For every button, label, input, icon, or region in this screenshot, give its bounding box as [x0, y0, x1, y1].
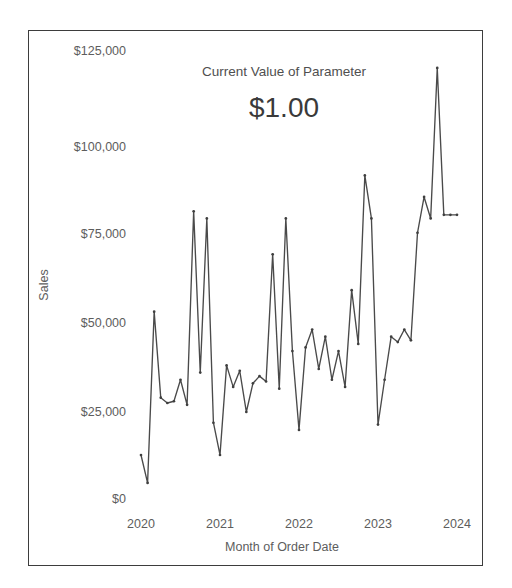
parameter-value: $1.00 [249, 92, 319, 123]
x-tick-label-2024: 2024 [443, 517, 471, 531]
x-axis-title: Month of Order Date [225, 540, 339, 554]
y-tick-label-100000: $100,000 [74, 140, 126, 154]
y-tick-label-125000: $125,000 [74, 44, 126, 58]
x-axis-tick-labels: 2020 2021 2022 2023 2024 [127, 517, 471, 531]
sales-series-line [141, 68, 457, 483]
y-tick-label-0: $0 [112, 492, 126, 506]
parameter-caption: Current Value of Parameter [202, 64, 367, 79]
x-tick-label-2020: 2020 [127, 517, 155, 531]
x-tick-label-2022: 2022 [285, 517, 313, 531]
y-axis-title: Sales [37, 269, 51, 300]
y-tick-label-50000: $50,000 [81, 316, 126, 330]
sales-line-chart[interactable]: $125,000 $100,000 $75,000 $50,000 $25,00… [0, 0, 512, 588]
x-tick-label-2023: 2023 [364, 517, 392, 531]
y-axis-tick-labels: $125,000 $100,000 $75,000 $50,000 $25,00… [74, 44, 126, 506]
y-tick-label-25000: $25,000 [81, 405, 126, 419]
y-tick-label-75000: $75,000 [81, 227, 126, 241]
x-tick-label-2021: 2021 [206, 517, 234, 531]
